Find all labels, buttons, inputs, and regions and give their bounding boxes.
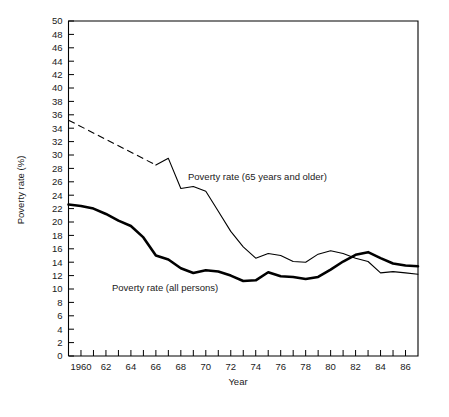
series-label: Poverty rate (65 years and older) xyxy=(188,171,327,182)
x-tick-label: 84 xyxy=(375,361,386,372)
y-tick-label: 28 xyxy=(52,163,63,174)
y-tick-label: 32 xyxy=(52,136,63,147)
y-tick-label: 42 xyxy=(52,69,63,80)
y-tick-label: 46 xyxy=(52,42,63,53)
y-tick-label: 24 xyxy=(52,190,63,201)
x-tick-label: 70 xyxy=(201,361,212,372)
x-tick-label: 64 xyxy=(126,361,137,372)
x-tick-label: 72 xyxy=(225,361,236,372)
y-tick-label: 6 xyxy=(57,310,62,321)
y-axis-title: Poverty rate (%) xyxy=(15,156,26,225)
y-tick-label: 38 xyxy=(52,96,63,107)
y-tick-label: 30 xyxy=(52,149,63,160)
x-tick-label: 68 xyxy=(176,361,187,372)
x-tick-label: 76 xyxy=(275,361,286,372)
chart-background xyxy=(0,0,449,417)
y-tick-label: 8 xyxy=(57,297,62,308)
y-tick-label: 26 xyxy=(52,176,63,187)
y-tick-label: 40 xyxy=(52,82,63,93)
y-tick-label: 44 xyxy=(52,56,63,67)
x-tick-label: 80 xyxy=(325,361,336,372)
y-tick-label: 50 xyxy=(52,15,63,26)
y-tick-label: 36 xyxy=(52,109,63,120)
x-tick-label: 86 xyxy=(400,361,411,372)
chart-canvas: 0246810121416182022242628303234363840424… xyxy=(0,0,449,417)
x-tick-label: 78 xyxy=(300,361,311,372)
x-tick-label: 62 xyxy=(101,361,112,372)
y-tick-label: 0 xyxy=(57,350,62,361)
y-tick-label: 18 xyxy=(52,230,63,241)
y-tick-label: 12 xyxy=(52,270,63,281)
series-label: Poverty rate (all persons) xyxy=(112,282,218,293)
y-tick-label: 16 xyxy=(52,243,63,254)
y-tick-label: 10 xyxy=(52,283,63,294)
y-tick-label: 2 xyxy=(57,337,62,348)
y-tick-label: 34 xyxy=(52,123,63,134)
y-tick-label: 20 xyxy=(52,216,63,227)
y-tick-label: 22 xyxy=(52,203,63,214)
y-tick-label: 48 xyxy=(52,29,63,40)
poverty-rate-line-chart: 0246810121416182022242628303234363840424… xyxy=(0,0,449,417)
x-tick-label: 74 xyxy=(250,361,261,372)
x-tick-label: 82 xyxy=(350,361,361,372)
y-tick-label: 14 xyxy=(52,257,63,268)
x-tick-label: 1960 xyxy=(70,361,91,372)
x-tick-label: 66 xyxy=(151,361,162,372)
x-axis-title: Year xyxy=(228,376,247,387)
y-tick-label: 4 xyxy=(57,324,62,335)
